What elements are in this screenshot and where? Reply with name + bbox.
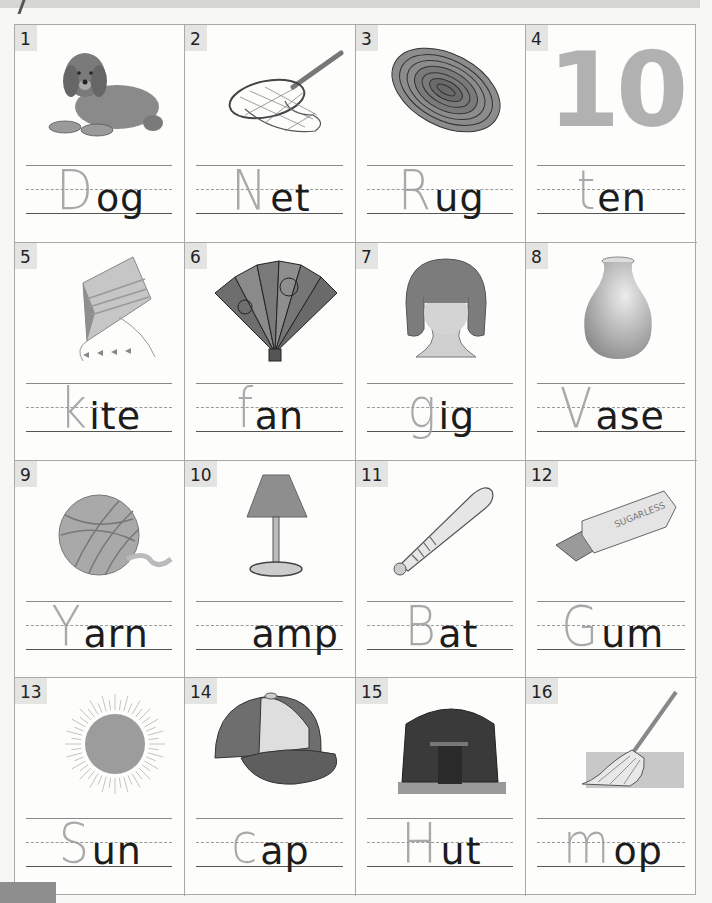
handwritten-letter: B [404,598,435,648]
sun-ray [67,731,82,735]
sun-ray [124,777,128,792]
word: f an [196,383,343,443]
gum-picture: SUGARLESS [546,471,686,581]
sun-ray [88,709,94,717]
sun-ray [98,775,102,784]
writing-lines: Y arn [26,601,172,661]
writing-lines: c ap [196,818,343,878]
sun-ray [109,778,110,788]
handwritten-letter: R [398,162,431,212]
net-picture [205,35,345,145]
sun-ray [67,753,82,757]
hut-picture [376,688,516,798]
worksheet-cell: 15 H ut [356,678,526,896]
printed-ending: ig [438,397,475,435]
handwritten-letter: S [59,815,89,865]
worksheet-cell: 14 c ap [185,678,356,896]
sun-picture [35,688,175,798]
cell-number: 3 [356,25,378,51]
worksheet-cell: 13 S un [15,678,185,896]
word: D og [26,165,172,225]
handwritten-letter: H [402,815,438,865]
sun-ray [71,748,81,749]
worksheet-cell: 11 B at [356,461,526,678]
writing-lines: V ase [537,383,685,443]
word: t en [537,165,685,225]
handwritten-letter: f [236,380,253,430]
worksheet-cell: 10 amp [185,461,356,678]
bat-picture [376,471,516,581]
worksheet-cell: 12 SUGARLESS G um [526,461,697,678]
sun-ray [74,727,83,731]
wig-picture [376,253,516,363]
printed-ending: et [270,179,310,217]
handwritten-letter: m [563,815,609,865]
word: N et [196,165,343,225]
worksheet-cell: 1 D og [15,25,185,243]
writing-lines: R ug [367,165,513,225]
sun-ray [128,775,132,784]
kite-picture [35,253,175,363]
word: R ug [367,165,513,225]
printed-ending: ite [89,397,141,435]
handwritten-letter: V [560,380,593,430]
printed-ending: og [96,179,145,217]
rug-picture [376,35,516,145]
printed-ending: arn [83,615,148,653]
word: g ig [367,383,513,443]
cell-number: 2 [185,25,207,51]
sun-ray [124,696,128,711]
word: c ap [196,818,343,878]
printed-ending: at [438,615,478,653]
handwritten-letter: t [577,162,596,212]
word: Y arn [26,601,172,661]
handwritten-letter: N [232,162,268,212]
word: m op [537,818,685,878]
sun-ray [136,709,142,717]
sun-ray [102,696,106,711]
sun-ray [148,753,163,757]
sun-ray [128,703,132,712]
printed-ending: amp [252,615,339,653]
worksheet-cell: 8 V ase [526,243,697,461]
sun-ray [149,748,159,749]
writing-lines: f an [196,383,343,443]
handwritten-letter: k [59,380,87,430]
cell-number: 4 [526,25,548,51]
vase-picture [546,253,686,363]
handwritten-letter: G [561,598,598,648]
sun-ray [71,738,81,739]
worksheet-cell: 6 f an [185,243,356,461]
yarn-picture [35,471,175,581]
word: B at [367,601,513,661]
sun-ray [119,700,120,710]
cell-number: 5 [15,243,37,269]
sun-ray [142,717,150,723]
printed-ending: ase [595,397,664,435]
handwritten-letter: D [56,162,93,212]
worksheet-cell: 9 Y arn [15,461,185,678]
page-corner-tab [0,882,56,903]
printed-ending: ap [260,832,309,870]
writing-lines: B at [367,601,513,661]
sun-ray [148,731,163,735]
number-ten-picture: 10 [546,35,686,145]
worksheet-cell: 3 R ug [356,25,526,243]
cell-number: 7 [356,243,378,269]
word: k ite [26,383,172,443]
sun-ray [80,717,88,723]
writing-lines: g ig [367,383,513,443]
printed-ending: um [601,615,664,653]
writing-lines: k ite [26,383,172,443]
word: G um [537,601,685,661]
cell-number: 9 [15,461,37,487]
printed-ending: an [255,397,304,435]
printed-ending: un [92,832,142,870]
worksheet-cell: 16 m op [526,678,697,896]
dog-picture [35,35,175,145]
writing-lines: G um [537,601,685,661]
writing-lines: N et [196,165,343,225]
writing-lines: m op [537,818,685,878]
worksheet-grid: 1 D og 2 [14,24,696,895]
printed-ending: op [614,832,663,870]
